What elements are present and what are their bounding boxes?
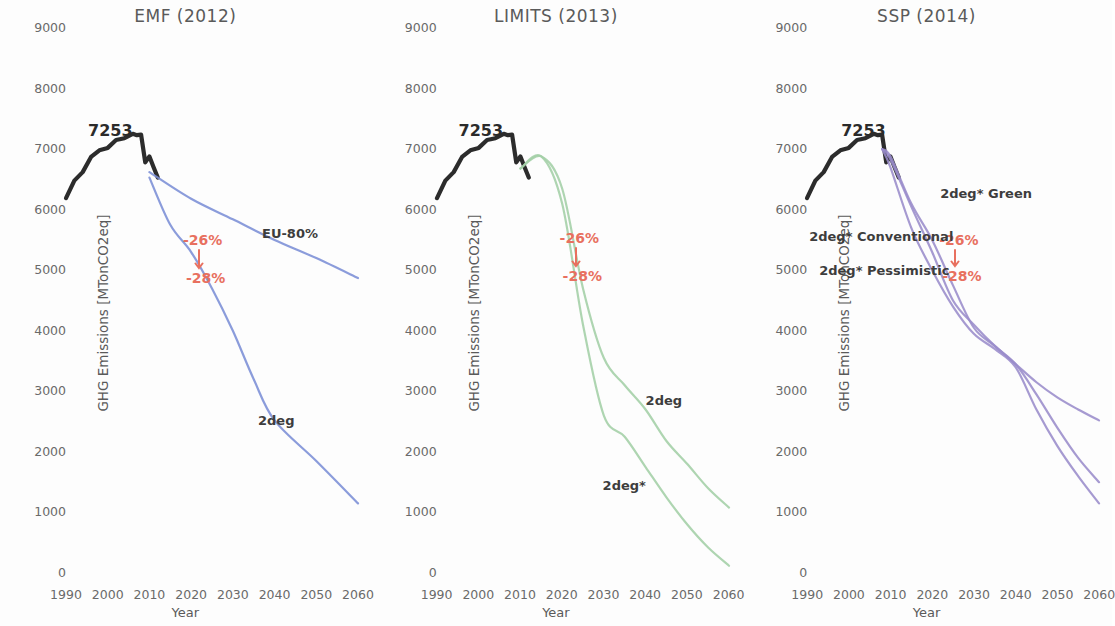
curve-label: 2deg* Pessimistic (819, 263, 949, 278)
curve-label: 2deg* (603, 478, 646, 493)
curve-label: 2deg (258, 413, 294, 428)
series-line-historical (437, 134, 529, 198)
series-line-historical (66, 134, 158, 198)
series-line-eu-80 (149, 172, 358, 278)
curve-label: 2deg (646, 393, 682, 408)
series-line-2deg (520, 156, 729, 508)
reduction-arrow-icon (952, 250, 959, 266)
plot-area-emf (0, 0, 371, 626)
reduction-label-upper: -26% (560, 230, 599, 246)
series-line-historical (807, 134, 899, 198)
reduction-label-lower: -28% (563, 268, 602, 284)
peak-value-label: 7253 (459, 121, 504, 140)
series-line-2deg (149, 178, 358, 504)
curve-label: EU-80% (262, 226, 318, 241)
peak-value-label: 7253 (88, 121, 133, 140)
curve-label: 2deg* Green (940, 186, 1032, 201)
plot-area-ssp (741, 0, 1112, 626)
curve-label: 2deg* Conventional (809, 229, 953, 244)
series-line-2deg-pessimistic (882, 149, 1099, 503)
chart-panel-limits: LIMITS (2013)GHG Emissions [MTonCO2eq]01… (371, 0, 742, 626)
chart-panel-emf: EMF (2012)GHG Emissions [MTonCO2eq]01000… (0, 0, 371, 626)
reduction-label-upper: -26% (183, 232, 222, 248)
peak-value-label: 7253 (841, 121, 886, 140)
chart-panel-ssp: SSP (2014)GHG Emissions [MTonCO2eq]01000… (741, 0, 1112, 626)
plot-area-limits (371, 0, 742, 626)
reduction-label-lower: -28% (186, 270, 225, 286)
reduction-arrow-icon (572, 248, 579, 266)
series-line-2deg (520, 155, 729, 566)
